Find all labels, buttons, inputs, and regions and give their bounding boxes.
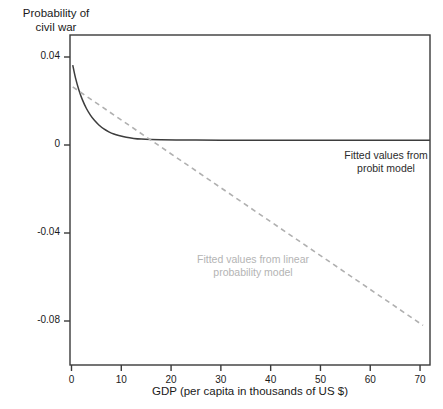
series-annotation: Fitted values from probit model: [321, 149, 443, 175]
series-annotation: Fitted values from linear probability mo…: [188, 253, 318, 279]
x-tick-label: 60: [355, 374, 385, 385]
x-tick-label: 70: [405, 374, 435, 385]
x-tick-label: 0: [56, 374, 86, 385]
y-axis-title: Probability of civil war: [4, 6, 108, 34]
x-tick-label: 50: [305, 374, 335, 385]
x-tick-label: 20: [156, 374, 186, 385]
y-tick-label: -0.08: [14, 314, 60, 325]
y-tick-label: 0: [14, 138, 60, 149]
series-line: [73, 65, 430, 140]
x-axis-title: GDP (per capita in thousands of US $): [70, 385, 430, 397]
x-tick-label: 40: [256, 374, 286, 385]
chart-figure: Probability of civil war GDP (per capita…: [0, 0, 443, 409]
y-tick-label: 0.04: [14, 50, 60, 61]
x-tick-label: 10: [106, 374, 136, 385]
plot-area: [0, 0, 443, 409]
x-tick-label: 30: [206, 374, 236, 385]
y-tick-label: -0.04: [14, 226, 60, 237]
series-line: [73, 87, 423, 325]
